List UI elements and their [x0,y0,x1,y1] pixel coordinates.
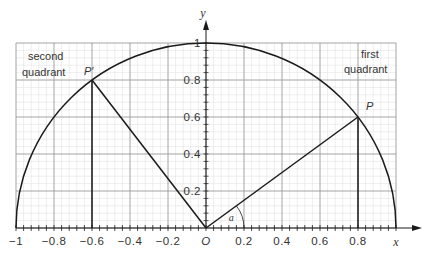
y-tick-label: 0.2 [184,185,202,197]
x-tick-label: −1 [9,235,23,247]
first-quadrant-label-line2: quadrant [344,63,387,75]
second-quadrant-label-line2: quadrant [22,66,65,78]
origin-label: O [201,235,210,247]
point-p-label: P [366,100,374,112]
angle-a-label: a [229,212,234,223]
x-axis-arrow-icon [412,225,422,231]
unit-circle-diagram: second quadrant first quadrant P P′ a O … [0,0,431,261]
point-p-prime-label: P′ [84,65,94,77]
x-tick-label: −0.4 [118,235,143,247]
y-tick-label: 0.8 [184,74,202,86]
x-tick-label: 0.6 [311,235,329,247]
first-quadrant-label-line1: first [361,48,379,60]
y-axis-label: y [199,6,206,20]
x-tick-label: 0.4 [273,235,291,247]
second-quadrant-label-line1: second [28,50,63,62]
x-tick-label: 0.8 [349,235,367,247]
x-axis-label: x [392,235,399,249]
x-tick-label: −0.8 [42,235,67,247]
x-tick-label: 0.2 [235,235,253,247]
y-tick-label: 1 [194,37,201,49]
x-tick-label: −0.6 [80,235,105,247]
y-tick-label: 0.6 [184,111,202,123]
x-tick-label: −0.2 [156,235,181,247]
angle-a-arc [236,206,244,228]
y-tick-label: 0.4 [184,148,202,160]
y-axis-arrow-icon [203,20,209,30]
